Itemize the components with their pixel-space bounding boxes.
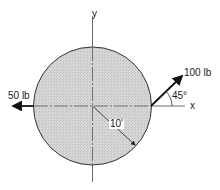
x-axis-label: x	[190, 101, 195, 111]
y-axis-label: y	[92, 9, 97, 19]
force-100-label: 100 lb	[184, 68, 211, 78]
angle-label: 45°	[172, 91, 187, 101]
radius-label: 10'	[109, 119, 124, 129]
force-50-label: 50 lb	[8, 91, 30, 101]
